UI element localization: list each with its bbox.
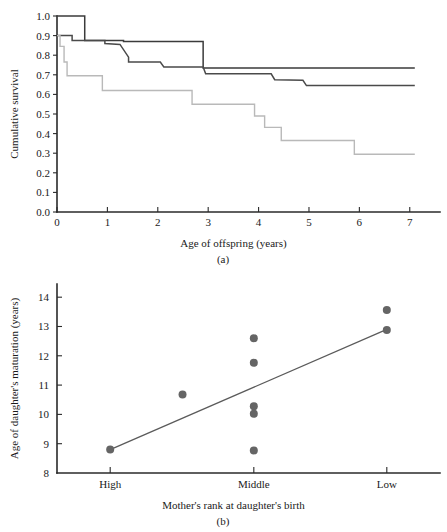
panel-b-y-ticklabel: 12 bbox=[38, 350, 49, 362]
panel-b-regression-line bbox=[110, 329, 387, 449]
panel-a-y-ticklabel: 0.9 bbox=[36, 30, 50, 42]
panel-b-point bbox=[179, 390, 187, 398]
panel-a-y-ticklabel: 0.6 bbox=[36, 88, 50, 100]
panel-a-y-ticklabel: 0.7 bbox=[36, 69, 50, 81]
panel-b-point bbox=[106, 446, 114, 454]
panel-a-survival-chart: 0.00.10.20.30.40.50.60.70.80.91.0 012345… bbox=[0, 0, 447, 270]
panel-a-y-ticklabels: 0.00.10.20.30.40.50.60.70.80.91.0 bbox=[36, 10, 50, 218]
panel-b-y-ticklabels: 891011121314 bbox=[38, 291, 50, 479]
panel-a-curve-curve-middle-rank bbox=[57, 36, 415, 86]
panel-a-x-axis-title: Age of offspring (years) bbox=[180, 237, 287, 250]
panel-a-svg: 0.00.10.20.30.40.50.60.70.80.91.0 012345… bbox=[0, 0, 447, 270]
panel-b-x-ticklabels: HighMiddleLow bbox=[99, 478, 397, 490]
panel-b-point bbox=[250, 402, 258, 410]
panel-b-x-ticklabel: Low bbox=[377, 478, 397, 490]
panel-a-y-ticklabel: 0.8 bbox=[36, 49, 50, 61]
panel-b-svg: 891011121314 HighMiddleLow Age of daught… bbox=[0, 270, 447, 532]
panel-a-y-ticklabel: 1.0 bbox=[36, 10, 50, 22]
panel-a-letter: (a) bbox=[217, 253, 230, 266]
panel-a-x-ticklabel: 3 bbox=[205, 216, 211, 228]
panel-a-curve-curve-high-rank bbox=[57, 16, 415, 68]
panel-a-x-ticklabels: 01234567 bbox=[54, 216, 413, 228]
panel-a-curve-curve-low-rank bbox=[57, 36, 415, 155]
panel-a-x-ticklabel: 0 bbox=[54, 216, 60, 228]
panel-a-y-axis-title: Cumulative survival bbox=[8, 69, 20, 159]
panel-b-letter: (b) bbox=[217, 515, 230, 528]
panel-a-x-ticklabel: 2 bbox=[155, 216, 161, 228]
panel-b-x-axis-title: Mother's rank at daughter's birth bbox=[162, 499, 305, 511]
panel-b-y-ticklabel: 11 bbox=[38, 379, 49, 391]
panel-b-y-ticklabel: 10 bbox=[38, 408, 50, 420]
panel-a-y-ticklabel: 0.3 bbox=[36, 147, 50, 159]
panel-a-y-ticklabel: 0.5 bbox=[36, 108, 50, 120]
panel-b-scatter-chart: 891011121314 HighMiddleLow Age of daught… bbox=[0, 270, 447, 532]
panel-a-x-ticklabel: 1 bbox=[105, 216, 111, 228]
panel-b-y-ticklabel: 8 bbox=[44, 467, 50, 479]
panel-a-x-ticklabel: 7 bbox=[407, 216, 413, 228]
panel-a-y-ticklabel: 0.1 bbox=[36, 186, 50, 198]
panel-a-x-ticklabel: 6 bbox=[357, 216, 363, 228]
panel-b-point bbox=[250, 446, 258, 454]
panel-a-x-ticklabel: 5 bbox=[306, 216, 312, 228]
panel-a-x-ticklabel: 4 bbox=[256, 216, 262, 228]
panel-b-y-axis-title: Age of daughter's maturation (years) bbox=[8, 297, 21, 459]
panel-b-point bbox=[383, 326, 391, 334]
panel-b-point bbox=[250, 359, 258, 367]
panel-b-point bbox=[250, 410, 258, 418]
panel-b-x-ticks bbox=[110, 467, 387, 473]
panel-a-y-ticklabel: 0.0 bbox=[36, 206, 50, 218]
panel-b-x-ticklabel: High bbox=[99, 478, 122, 490]
panel-b-y-ticklabel: 13 bbox=[38, 320, 50, 332]
panel-a-y-ticklabel: 0.2 bbox=[36, 167, 50, 179]
panel-a-y-ticklabel: 0.4 bbox=[36, 128, 50, 140]
panel-b-point bbox=[250, 334, 258, 342]
figure-container: 0.00.10.20.30.40.50.60.70.80.91.0 012345… bbox=[0, 0, 447, 532]
panel-a-series-group bbox=[57, 16, 415, 154]
panel-b-y-ticklabel: 9 bbox=[44, 438, 50, 450]
panel-b-x-ticklabel: Middle bbox=[238, 478, 270, 490]
panel-b-y-ticklabel: 14 bbox=[38, 291, 50, 303]
panel-b-point bbox=[383, 306, 391, 314]
